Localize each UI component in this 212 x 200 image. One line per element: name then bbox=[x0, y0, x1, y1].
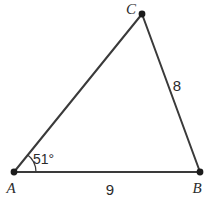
side-BC-line bbox=[142, 14, 200, 172]
vertex-A-dot bbox=[11, 169, 18, 176]
vertex-label-B: B bbox=[192, 180, 201, 196]
side-label-AB: 9 bbox=[106, 181, 114, 198]
vertex-label-A: A bbox=[5, 180, 16, 196]
side-CA-line bbox=[14, 14, 142, 172]
vertex-C-dot bbox=[139, 11, 146, 18]
angle-label-A: 51° bbox=[33, 151, 54, 167]
vertex-label-C: C bbox=[126, 1, 137, 17]
geometry-figure: A B C 9 8 51° bbox=[0, 0, 212, 200]
triangle-diagram: A B C 9 8 51° bbox=[0, 0, 212, 200]
side-label-BC: 8 bbox=[173, 77, 181, 94]
vertex-B-dot bbox=[197, 169, 204, 176]
